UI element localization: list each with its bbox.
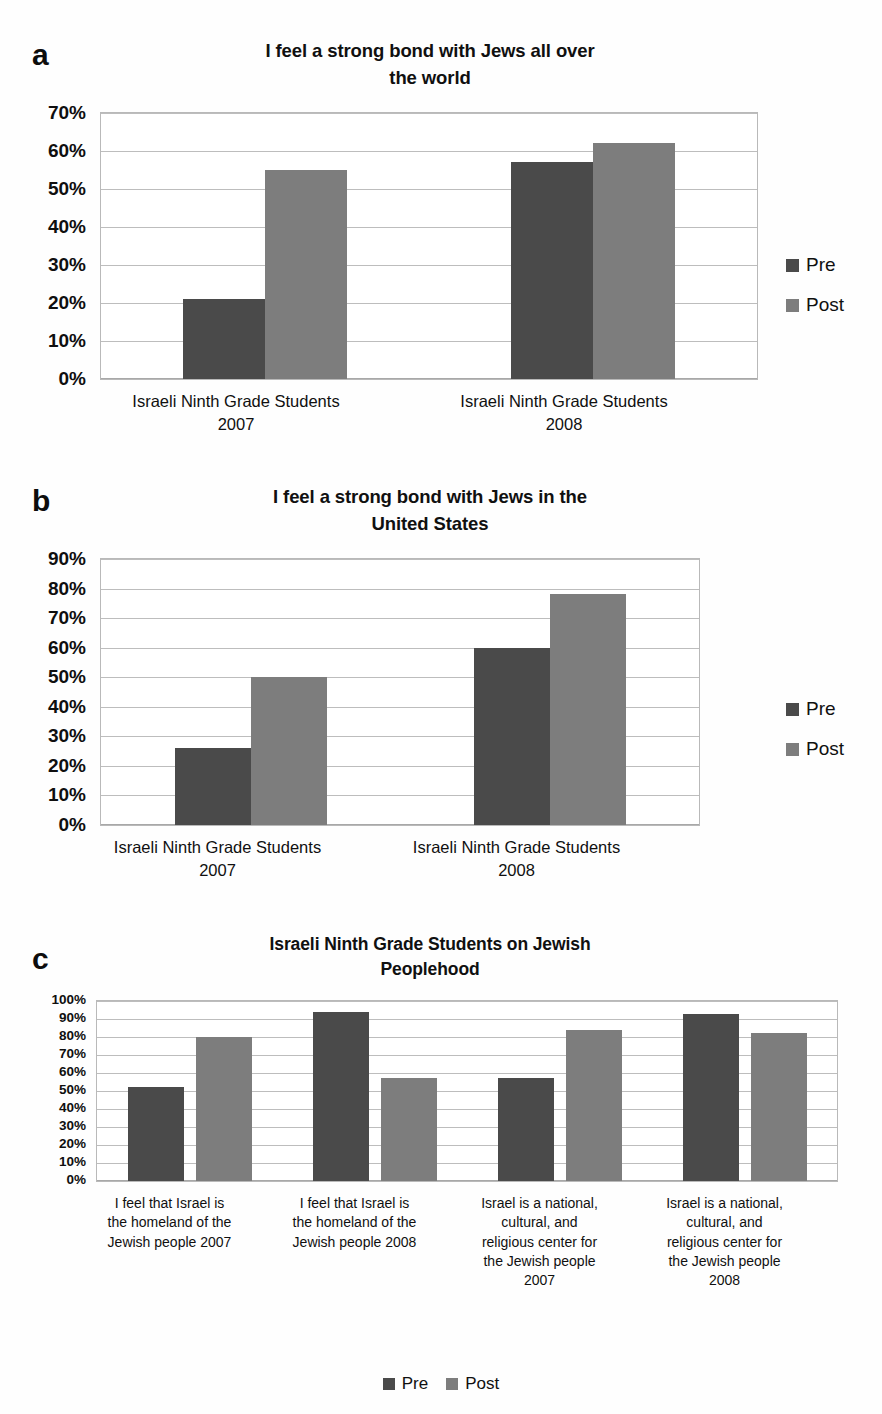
y-tick-label: 90%	[59, 1011, 86, 1025]
category-label-line: Israel is a national,	[639, 1194, 810, 1213]
legend-swatch-pre-icon	[383, 1378, 395, 1390]
category-label-line: Israeli Ninth Grade Students	[82, 390, 390, 413]
panel-title-a-line1: I feel a strong bond with Jews all over	[130, 38, 730, 65]
bar-post-3	[566, 1030, 622, 1181]
legend-label-pre: Pre	[806, 254, 836, 276]
category-label: Israeli Ninth Grade Students2007	[68, 836, 367, 883]
bar-pre-2	[474, 648, 550, 825]
bar-pre-2	[313, 1012, 369, 1181]
category-label-line: I feel that Israel is	[269, 1194, 440, 1213]
plot-canvas-b	[100, 558, 700, 826]
legend-item-pre-a[interactable]: Pre	[786, 254, 836, 276]
bar-post-1	[251, 677, 327, 825]
figure-page: a I feel a strong bond with Jews all ove…	[0, 0, 882, 1414]
legend-a: Pre Post	[786, 254, 882, 334]
y-tick-label: 90%	[48, 549, 86, 568]
legend-swatch-pre-icon	[786, 259, 799, 272]
y-tick-label: 50%	[59, 1083, 86, 1097]
y-axis-labels-b: 0%10%20%30%40%50%60%70%80%90%	[18, 558, 92, 828]
y-tick-label: 0%	[59, 815, 86, 834]
legend-item-post-b[interactable]: Post	[786, 738, 844, 760]
category-label: Israeli Ninth Grade Students2008	[367, 836, 666, 883]
plot-area-c: 0%10%20%30%40%50%60%70%80%90%100%	[18, 1000, 838, 1118]
y-tick-label: 0%	[66, 1173, 86, 1187]
y-tick-label: 0%	[59, 369, 86, 388]
y-axis-labels-a: 0%10%20%30%40%50%60%70%	[18, 112, 92, 382]
panel-title-b-line1: I feel a strong bond with Jews in the	[130, 484, 730, 511]
y-tick-label: 60%	[48, 141, 86, 160]
legend-item-post-c[interactable]: Post	[446, 1374, 499, 1394]
legend-label-post: Post	[806, 738, 844, 760]
category-label: I feel that Israel isthe homeland of the…	[269, 1194, 440, 1252]
y-tick-label: 50%	[48, 667, 86, 686]
panel-letter-a: a	[32, 40, 49, 70]
category-label-line: Israel is a national,	[454, 1194, 625, 1213]
y-tick-label: 40%	[48, 217, 86, 236]
running-head	[0, 0, 882, 14]
bar-pre-4	[683, 1014, 739, 1181]
plot-canvas-a	[100, 112, 758, 380]
category-label-line: 2007	[454, 1271, 625, 1290]
legend-c: Pre Post	[0, 1374, 882, 1394]
y-tick-label: 80%	[59, 1029, 86, 1043]
bar-pre-1	[183, 299, 265, 379]
legend-label-pre: Pre	[402, 1374, 428, 1394]
bar-post-4	[751, 1033, 807, 1181]
gridline	[101, 589, 699, 590]
category-label-line: 2007	[82, 413, 390, 436]
y-tick-label: 20%	[48, 293, 86, 312]
gridline-top	[97, 1001, 837, 1002]
category-label: Israeli Ninth Grade Students2007	[82, 390, 390, 437]
category-label-line: 2008	[639, 1271, 810, 1290]
bar-post-1	[196, 1037, 252, 1181]
legend-label-post: Post	[465, 1374, 499, 1394]
y-tick-label: 30%	[48, 255, 86, 274]
category-label-line: 2007	[68, 859, 367, 882]
category-label: Israel is a national,cultural, andreligi…	[454, 1194, 625, 1291]
category-label-line: the Jewish people	[639, 1252, 810, 1271]
y-axis-labels-c: 0%10%20%30%40%50%60%70%80%90%100%	[18, 1000, 92, 1118]
category-label-line: Israeli Ninth Grade Students	[367, 836, 666, 859]
chart-panel-b: b I feel a strong bond with Jews in the …	[0, 478, 882, 928]
legend-item-pre-c[interactable]: Pre	[383, 1374, 428, 1394]
panel-title-c: Israeli Ninth Grade Students on Jewish P…	[150, 932, 710, 983]
y-tick-label: 80%	[48, 578, 86, 597]
y-tick-label: 10%	[59, 1155, 86, 1169]
panel-title-a: I feel a strong bond with Jews all over …	[130, 38, 730, 92]
y-tick-label: 70%	[59, 1047, 86, 1061]
y-tick-label: 30%	[59, 1119, 86, 1133]
plot-area-a: 0%10%20%30%40%50%60%70%	[18, 112, 758, 382]
chart-panel-a: a I feel a strong bond with Jews all ove…	[0, 26, 882, 476]
category-label-line: 2008	[410, 413, 718, 436]
panel-letter-c: c	[32, 944, 49, 974]
category-label-line: the homeland of the	[84, 1213, 255, 1232]
legend-swatch-post-icon	[786, 299, 799, 312]
y-tick-label: 20%	[48, 755, 86, 774]
panel-title-a-line2: the world	[130, 65, 730, 92]
category-label-line: Jewish people 2007	[84, 1233, 255, 1252]
category-label-line: Jewish people 2008	[269, 1233, 440, 1252]
y-tick-label: 70%	[48, 608, 86, 627]
plot-canvas-c	[96, 1000, 838, 1182]
legend-label-pre: Pre	[806, 698, 836, 720]
bar-pre-1	[128, 1087, 184, 1181]
category-label-line: religious center for	[454, 1233, 625, 1252]
category-label-line: cultural, and	[639, 1213, 810, 1232]
category-label-line: 2008	[367, 859, 666, 882]
panel-letter-b: b	[32, 486, 50, 516]
y-tick-label: 70%	[48, 103, 86, 122]
bar-post-2	[381, 1078, 437, 1181]
legend-item-post-a[interactable]: Post	[786, 294, 844, 316]
y-tick-label: 10%	[48, 331, 86, 350]
bar-pre-3	[498, 1078, 554, 1181]
legend-item-pre-b[interactable]: Pre	[786, 698, 836, 720]
bar-post-1	[265, 170, 347, 379]
category-label: I feel that Israel isthe homeland of the…	[84, 1194, 255, 1252]
bar-post-2	[593, 143, 675, 379]
y-tick-label: 20%	[59, 1137, 86, 1151]
chart-panel-c: c Israeli Ninth Grade Students on Jewish…	[0, 928, 882, 1414]
legend-swatch-pre-icon	[786, 703, 799, 716]
panel-title-b-line2: United States	[130, 511, 730, 538]
category-label: Israeli Ninth Grade Students2008	[410, 390, 718, 437]
category-label-line: the Jewish people	[454, 1252, 625, 1271]
